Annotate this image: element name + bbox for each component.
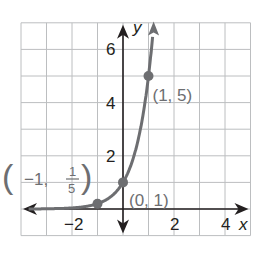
fraction-denominator: 5 (68, 181, 75, 196)
y-tick-label: 4 (106, 94, 115, 113)
y-tick-label: 2 (106, 147, 115, 166)
data-point (118, 177, 128, 187)
x-tick-label: −2 (64, 215, 83, 234)
fraction-numerator: 1 (69, 164, 76, 179)
x-axis-label: x (238, 215, 248, 234)
y-axis-label: y (132, 18, 143, 37)
x-tick-label: 2 (170, 215, 179, 234)
data-point (93, 199, 103, 209)
y-tick-label: 6 (106, 40, 115, 59)
label-paren-open: ( (2, 157, 14, 195)
curve-arrow-icon (148, 21, 159, 35)
point-label-0-1: (0, 1) (129, 191, 169, 210)
exponential-graph: −224246xy(1, 5)(0, 1)(−1,15) (0, 0, 254, 260)
x-tick-label: 4 (221, 215, 230, 234)
point-label-1-5: (1, 5) (153, 86, 193, 105)
point-label-neg1: −1, (24, 170, 48, 189)
label-paren-close: ) (81, 157, 92, 195)
data-point (144, 71, 154, 81)
